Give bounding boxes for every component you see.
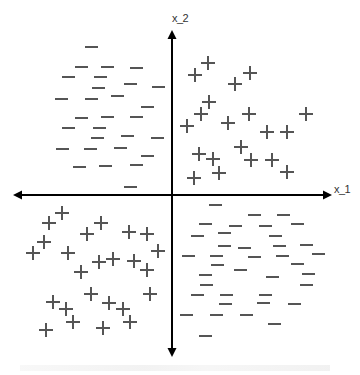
minus-marker-icon: [199, 274, 212, 276]
plus-marker-icon: [201, 56, 215, 70]
plus-marker-icon: [243, 66, 257, 80]
minus-marker-icon: [218, 232, 231, 234]
arrow-left-icon: [13, 191, 22, 200]
plus-marker-icon: [234, 140, 248, 154]
cropped-caption-strip: [20, 365, 330, 371]
plus-marker-icon: [26, 246, 40, 260]
minus-marker-icon: [269, 235, 282, 237]
plus-marker-icon: [280, 125, 294, 139]
minus-marker-icon: [93, 127, 106, 129]
minus-marker-icon: [75, 66, 88, 68]
minus-marker-icon: [229, 225, 242, 227]
minus-marker-icon: [151, 137, 164, 139]
plus-marker-icon: [188, 68, 202, 82]
minus-marker-icon: [130, 116, 143, 118]
plus-marker-icon: [187, 171, 201, 185]
minus-marker-icon: [276, 255, 289, 257]
plus-marker-icon: [140, 263, 154, 277]
plus-marker-icon: [180, 119, 194, 133]
minus-marker-icon: [124, 186, 137, 188]
plus-marker-icon: [228, 77, 242, 91]
minus-marker-icon: [312, 253, 325, 255]
minus-marker-icon: [130, 67, 143, 69]
minus-marker-icon: [288, 303, 301, 305]
plus-marker-icon: [122, 225, 136, 239]
plus-marker-icon: [260, 125, 274, 139]
minus-marker-icon: [218, 245, 231, 247]
minus-marker-icon: [240, 314, 253, 316]
minus-marker-icon: [73, 166, 86, 168]
minus-marker-icon: [277, 214, 290, 216]
minus-marker-icon: [259, 294, 272, 296]
plus-marker-icon: [123, 315, 137, 329]
minus-marker-icon: [248, 214, 261, 216]
minus-marker-icon: [84, 148, 97, 150]
plus-marker-icon: [92, 255, 106, 269]
plus-marker-icon: [151, 244, 165, 258]
arrow-up-icon: [168, 30, 177, 39]
plus-marker-icon: [42, 216, 56, 230]
plus-marker-icon: [96, 321, 110, 335]
minus-marker-icon: [94, 76, 107, 78]
plus-marker-icon: [143, 287, 157, 301]
plus-marker-icon: [140, 227, 154, 241]
minus-marker-icon: [182, 255, 195, 257]
plus-marker-icon: [299, 107, 313, 121]
minus-marker-icon: [209, 204, 222, 206]
minus-marker-icon: [248, 256, 261, 258]
minus-marker-icon: [200, 284, 213, 286]
minus-marker-icon: [300, 244, 313, 246]
minus-marker-icon: [191, 294, 204, 296]
minus-marker-icon: [141, 155, 154, 157]
plus-marker-icon: [221, 116, 235, 130]
minus-marker-icon: [180, 314, 193, 316]
plus-marker-icon: [46, 295, 60, 309]
minus-marker-icon: [130, 164, 143, 166]
minus-marker-icon: [114, 147, 127, 149]
x1-axis-label: x_1: [334, 183, 350, 195]
plus-marker-icon: [84, 287, 98, 301]
minus-marker-icon: [220, 294, 233, 296]
plus-marker-icon: [206, 152, 220, 166]
plus-marker-icon: [39, 323, 53, 337]
minus-marker-icon: [92, 87, 105, 89]
minus-marker-icon: [101, 116, 114, 118]
minus-marker-icon: [152, 86, 165, 88]
plus-marker-icon: [94, 216, 108, 230]
minus-marker-icon: [99, 165, 112, 167]
plus-marker-icon: [74, 265, 88, 279]
xor-scatter-diagram: [0, 0, 360, 375]
minus-marker-icon: [211, 264, 224, 266]
minus-marker-icon: [91, 137, 104, 139]
arrow-right-icon: [323, 191, 332, 200]
minus-marker-icon: [238, 247, 251, 249]
minus-marker-icon: [62, 76, 75, 78]
plus-marker-icon: [242, 107, 256, 121]
plus-marker-icon: [194, 107, 208, 121]
plus-marker-icon: [80, 227, 94, 241]
minus-marker-icon: [234, 269, 247, 271]
plus-marker-icon: [106, 252, 120, 266]
plus-marker-icon: [102, 296, 116, 310]
plus-marker-icon: [244, 153, 258, 167]
minus-marker-icon: [219, 303, 232, 305]
minus-marker-icon: [101, 66, 114, 68]
minus-marker-icon: [111, 95, 124, 97]
plus-marker-icon: [66, 315, 80, 329]
plus-marker-icon: [127, 254, 141, 268]
minus-marker-icon: [62, 127, 75, 129]
plus-marker-icon: [265, 153, 279, 167]
plus-marker-icon: [59, 302, 73, 316]
minus-marker-icon: [56, 148, 69, 150]
minus-marker-icon: [121, 135, 134, 137]
plus-marker-icon: [280, 165, 294, 179]
minus-marker-icon: [302, 273, 315, 275]
minus-marker-icon: [141, 106, 154, 108]
minus-marker-icon: [266, 276, 279, 278]
minus-marker-icon: [300, 284, 313, 286]
minus-marker-icon: [291, 263, 304, 265]
minus-marker-icon: [273, 245, 286, 247]
arrow-down-icon: [168, 348, 177, 357]
minus-marker-icon: [199, 223, 212, 225]
minus-marker-icon: [210, 314, 223, 316]
